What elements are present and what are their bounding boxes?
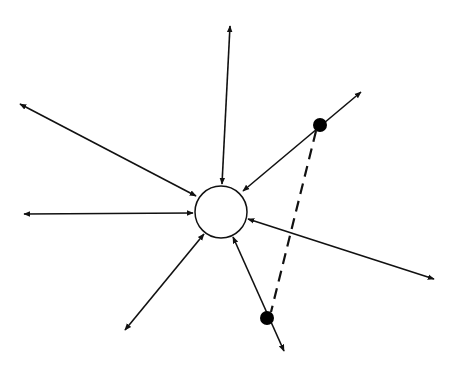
edge-arrow-left bbox=[24, 213, 193, 214]
network-diagram bbox=[0, 0, 453, 367]
dashed-link bbox=[271, 131, 316, 312]
edge-arrow-upper-right bbox=[243, 92, 361, 191]
edge-arrow-lower-left bbox=[125, 234, 204, 330]
edge-arrow-right bbox=[248, 219, 434, 279]
center-node bbox=[195, 186, 247, 238]
dot-upper-marker bbox=[313, 118, 327, 132]
dot-lower-marker bbox=[260, 311, 274, 325]
edge-arrow-top bbox=[222, 26, 230, 184]
edge-arrow-upper-left bbox=[20, 104, 196, 196]
